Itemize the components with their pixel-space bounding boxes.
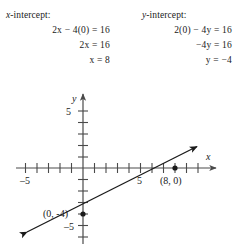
- point-8-0-label: (8, 0): [160, 175, 182, 187]
- coordinate-graph: x –5 5: [0, 72, 242, 248]
- y-tick-label-5: 5: [66, 106, 71, 117]
- y-intercept-step-3: y = −4: [124, 53, 236, 68]
- point-8-0-dot: [172, 165, 177, 170]
- figure-root: x-intercept: 2x − 4(0) = 16 2x = 16 x = …: [0, 0, 242, 248]
- x-intercept-step-1: 2x − 4(0) = 16: [6, 23, 114, 38]
- x-intercept-heading: x-intercept:: [6, 8, 114, 23]
- point-0-neg4-label: (0, -4): [43, 208, 68, 220]
- y-tick-label-neg5: –5: [63, 221, 74, 232]
- x-intercept-step-2: 2x = 16: [6, 38, 114, 53]
- graph-svg: x –5 5: [0, 72, 242, 248]
- x-tick-label-neg5: –5: [19, 175, 30, 186]
- line-2x-minus-4y-equals-16: [27, 147, 197, 233]
- x-intercept-work: x-intercept: 2x − 4(0) = 16 2x = 16 x = …: [6, 8, 114, 68]
- plotted-line: [27, 147, 197, 233]
- x-axis-label: x: [205, 151, 211, 162]
- x-axis: x –5 5: [16, 151, 216, 186]
- y-axis-label: y: [71, 93, 77, 104]
- y-intercept-heading: y-intercept:: [124, 8, 236, 23]
- y-intercept-heading-rest: -intercept:: [146, 10, 186, 20]
- y-intercept-step-1: 2(0) − 4y = 16: [124, 23, 236, 38]
- y-intercept-work: y-intercept: 2(0) − 4y = 16 −4y = 16 y =…: [124, 8, 236, 68]
- x-intercept-heading-rest: -intercept:: [10, 10, 50, 20]
- point-0-neg4-dot: [80, 211, 85, 216]
- x-intercept-step-3: x = 8: [6, 53, 114, 68]
- y-intercept-step-2: −4y = 16: [124, 38, 236, 53]
